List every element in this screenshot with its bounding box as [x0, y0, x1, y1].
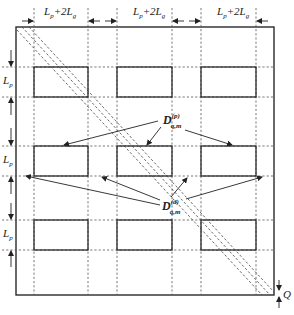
pattern-pointer-arrows — [64, 121, 232, 145]
pattern-boxes — [34, 67, 256, 250]
top-label-2: Lp+2Lg — [132, 5, 166, 20]
offset-q-label: Q — [283, 288, 291, 300]
left-dimension-labels: Lp Lp Lp — [2, 74, 13, 242]
pattern-box-r2c3 — [201, 146, 256, 176]
pattern-box-r3c3 — [201, 220, 256, 250]
left-label-1: Lp — [2, 74, 13, 89]
horizontal-guides — [2, 67, 274, 250]
pattern-box-r1c1 — [34, 67, 88, 97]
pattern-box-r2c1 — [34, 146, 88, 176]
pattern-box-r3c2 — [117, 220, 172, 250]
pattern-box-r2c2 — [117, 146, 172, 176]
top-dimension-labels: Lp+2Lg Lp+2Lg Lp+2Lg — [43, 5, 250, 20]
pattern-box-r3c1 — [34, 220, 88, 250]
top-label-3: Lp+2Lg — [216, 5, 250, 20]
pattern-label: D(p)q,m — [162, 112, 182, 130]
mask-pattern-diagram: Lp+2Lg Lp+2Lg Lp+2Lg Lp Lp Lp D(p)q,m D(… — [0, 0, 294, 315]
left-label-2: Lp — [2, 153, 13, 168]
left-label-3: Lp — [2, 227, 13, 242]
defect-label: D(d)q,m — [161, 198, 181, 216]
pattern-box-r1c2 — [117, 67, 172, 97]
pattern-box-r1c3 — [201, 67, 256, 97]
defect-pointer-arrows — [26, 176, 262, 205]
top-label-1: Lp+2Lg — [43, 5, 77, 20]
